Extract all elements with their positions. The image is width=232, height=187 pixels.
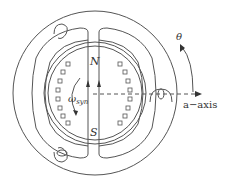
south-label: S [90,126,98,139]
arrow-up-icon [86,80,90,87]
a-axis-label: a−axis [183,99,217,110]
theta-arc [182,47,193,92]
a-axis-arrow-icon [195,91,202,97]
arrow-up-icon [97,80,101,87]
machine-diagram: N S ωsyn θ a−axis [0,0,232,187]
coil-a-axis [150,89,172,102]
winding-right-inner [99,40,143,146]
omega-label: ωsyn [68,93,89,106]
theta-label: θ [176,31,182,42]
winding-left [32,28,88,158]
rotation-arrow-icon [73,110,78,116]
north-label: N [89,55,100,68]
